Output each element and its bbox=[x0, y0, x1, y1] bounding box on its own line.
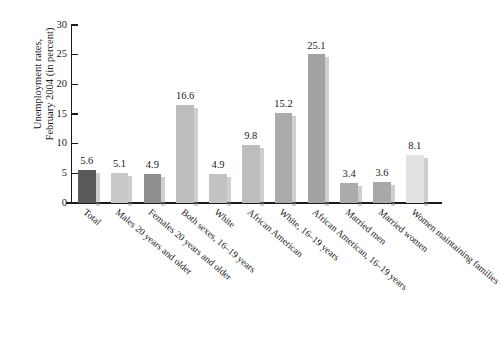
bar[interactable] bbox=[308, 54, 326, 203]
bar-value-label: 3.6 bbox=[375, 168, 388, 179]
bar-group[interactable]: 9.8 bbox=[242, 25, 260, 203]
bar[interactable] bbox=[111, 173, 129, 203]
bar-value-label: 15.2 bbox=[274, 99, 292, 110]
bar[interactable] bbox=[275, 113, 293, 203]
bar-value-label: 5.1 bbox=[113, 159, 126, 170]
bar-value-label: 4.9 bbox=[211, 160, 224, 171]
bar-value-label: 3.4 bbox=[343, 169, 356, 180]
bar-group[interactable]: 15.2 bbox=[275, 25, 293, 203]
x-axis-label[interactable]: White bbox=[213, 207, 237, 229]
y-axis-tick-label: 5 bbox=[46, 167, 67, 178]
bar-value-label: 4.9 bbox=[146, 160, 159, 171]
bar-value-label: 9.8 bbox=[244, 131, 257, 142]
y-axis-tick-label: 25 bbox=[46, 48, 67, 59]
bar-group[interactable]: 3.6 bbox=[373, 25, 391, 203]
bar-group[interactable]: 5.1 bbox=[111, 25, 129, 203]
plot-area: 5.65.14.916.64.99.815.225.13.43.68.1 bbox=[72, 25, 440, 203]
bar-value-label: 5.6 bbox=[80, 156, 93, 167]
bar[interactable] bbox=[176, 105, 194, 203]
y-axis-title-line-1: Unemployment rates, bbox=[32, 39, 44, 129]
bar-group[interactable]: 4.9 bbox=[209, 25, 227, 203]
bar[interactable] bbox=[209, 174, 227, 203]
bar[interactable] bbox=[340, 183, 358, 203]
bar[interactable] bbox=[144, 174, 162, 203]
bar-group[interactable]: 8.1 bbox=[406, 25, 424, 203]
bar-value-label: 8.1 bbox=[408, 141, 421, 152]
x-axis-label[interactable]: Total bbox=[81, 207, 102, 227]
bar-group[interactable]: 25.1 bbox=[308, 25, 326, 203]
bar-group[interactable]: 5.6 bbox=[78, 25, 96, 203]
y-axis-tick-label: 15 bbox=[46, 108, 67, 119]
y-axis-tick-label: 20 bbox=[46, 78, 67, 89]
bar-group[interactable]: 3.4 bbox=[340, 25, 358, 203]
y-axis-tick-label: 30 bbox=[46, 19, 67, 30]
bar-value-label: 16.6 bbox=[176, 91, 194, 102]
bar[interactable] bbox=[373, 182, 391, 203]
bar[interactable] bbox=[78, 170, 96, 203]
y-axis-tick-label: 10 bbox=[46, 137, 67, 148]
bar-group[interactable]: 16.6 bbox=[176, 25, 194, 203]
bar[interactable] bbox=[242, 145, 260, 203]
y-axis-tick-label: 0 bbox=[46, 197, 67, 208]
bar[interactable] bbox=[406, 155, 424, 203]
bar-value-label: 25.1 bbox=[307, 41, 325, 52]
bar-group[interactable]: 4.9 bbox=[144, 25, 162, 203]
